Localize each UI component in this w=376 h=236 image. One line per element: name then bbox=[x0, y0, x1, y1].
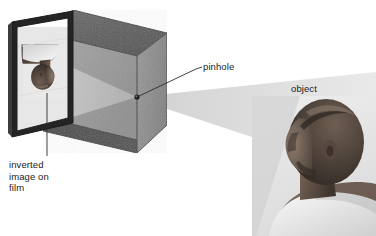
person-photograph-object bbox=[252, 96, 376, 236]
label-pinhole: pinhole bbox=[203, 61, 234, 73]
label-object: object bbox=[291, 83, 317, 95]
film-panel-with-inverted-image bbox=[8, 11, 73, 137]
label-inverted-image-on-film: inverted image on film bbox=[9, 159, 49, 194]
inverted-person-image-on-film bbox=[17, 18, 68, 131]
diagram-canvas bbox=[0, 0, 376, 236]
film-panel-edge bbox=[8, 22, 12, 137]
person-ear-inner bbox=[327, 145, 334, 156]
pinhole-camera-diagram: pinhole object inverted image on film bbox=[0, 0, 376, 236]
